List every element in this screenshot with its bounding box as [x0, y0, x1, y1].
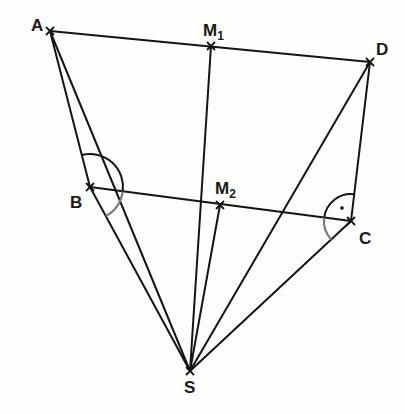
label-b-text: B — [70, 193, 82, 212]
segment-d-c — [351, 62, 370, 221]
label-d: D — [376, 41, 388, 58]
label-m1-subscript: 1 — [217, 29, 224, 43]
segment-a-b — [50, 31, 90, 187]
pyramid-diagram: A M1 D B M2 C S — [0, 0, 405, 414]
angle-arc-bcs — [324, 218, 331, 240]
label-c-text: C — [359, 229, 371, 248]
segment-b-s — [90, 187, 190, 371]
label-s: S — [184, 379, 195, 396]
label-m2-text: M — [215, 179, 229, 198]
label-a-text: A — [31, 16, 43, 35]
label-m2-subscript: 2 — [229, 187, 236, 201]
right-angle-dot — [340, 206, 344, 210]
label-s-text: S — [184, 378, 195, 397]
angle-arc-bcd — [324, 194, 354, 217]
label-b: B — [70, 194, 82, 211]
label-m2: M2 — [215, 180, 236, 200]
label-m1-text: M — [203, 21, 217, 40]
label-d-text: D — [376, 40, 388, 59]
segment-c-s — [190, 221, 351, 371]
label-a: A — [31, 17, 43, 34]
segments — [50, 31, 370, 371]
label-m1: M1 — [203, 22, 224, 42]
label-c: C — [359, 230, 371, 247]
segment-m1-s — [190, 46, 211, 371]
diagram-canvas — [0, 0, 405, 414]
point-markers — [46, 27, 374, 375]
